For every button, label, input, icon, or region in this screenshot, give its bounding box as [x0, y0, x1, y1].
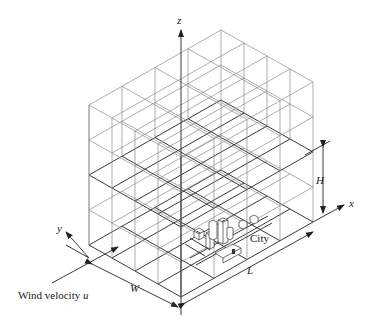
- x-axis: [313, 205, 344, 222]
- domain-diagram: z x y H L W Wind velocity u City: [0, 0, 371, 334]
- y-axis: [66, 232, 89, 258]
- wind-label: Wind velocity u: [18, 289, 89, 301]
- building: [218, 218, 228, 244]
- y-axis-label: y: [56, 222, 62, 234]
- building-low: [215, 244, 241, 263]
- z-axis-label: z: [176, 14, 182, 26]
- grid-lines: [89, 30, 313, 297]
- h-tick-top: [305, 141, 330, 155]
- building: [209, 220, 217, 240]
- width-label: W: [130, 282, 140, 294]
- city-label: City: [250, 232, 269, 244]
- length-label: L: [246, 264, 253, 276]
- y-axis-line: [66, 245, 89, 258]
- building: [194, 228, 204, 240]
- building-marker: [232, 249, 235, 254]
- x-axis-label: x: [348, 197, 354, 209]
- wind-arrow: [52, 247, 118, 283]
- building: [227, 227, 233, 240]
- building: [250, 215, 258, 224]
- height-label: H: [315, 174, 325, 186]
- building: [239, 220, 247, 229]
